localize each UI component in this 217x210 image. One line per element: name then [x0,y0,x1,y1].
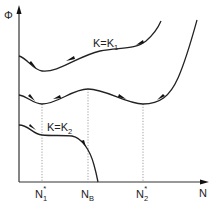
x-tick-labels: N1* NB N2* [35,184,148,203]
x-axis-label: N [199,187,207,199]
potential-diagram: Φ N K=K1 K=K2 N1* NB N2* [0,0,217,210]
tick-n2-star: N2* [136,184,148,203]
curve-k2-label: K=K2 [47,121,72,136]
y-axis-label: Φ [4,9,13,21]
curve-k2: K=K2 [19,121,98,182]
flow-arrow-icon [29,61,37,69]
flow-arrow-icon [66,56,75,61]
x-axis-arrow-icon [200,180,209,185]
curve-k1: K=K1 [19,21,161,71]
y-axis-arrow-icon [17,5,22,14]
flow-arrow-icon [81,140,86,147]
curve-intermediate [19,20,197,104]
tick-nb: NB [81,188,94,203]
tick-n1-star: N1* [35,184,47,203]
